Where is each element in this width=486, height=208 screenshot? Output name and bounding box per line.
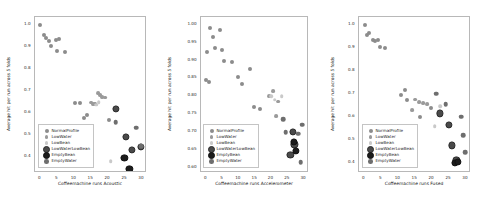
data-point: [57, 37, 61, 41]
y-tick: [200, 96, 201, 97]
y-tick: [200, 78, 201, 79]
data-point: [461, 133, 466, 138]
data-point: [274, 114, 278, 118]
legend-marker: [207, 152, 216, 159]
x-tick: [125, 171, 126, 172]
data-point: [97, 100, 101, 104]
data-point: [122, 133, 129, 140]
legend-label: EmptyWater: [376, 159, 401, 163]
legend-item[interactable]: EmptyWater: [207, 158, 255, 164]
legend-marker: [42, 135, 51, 139]
data-point: [121, 155, 128, 162]
legend-label: EmptyBean: [217, 153, 241, 157]
data-point: [363, 23, 367, 27]
x-tick-label: 10: [71, 176, 76, 180]
data-point: [405, 98, 409, 102]
x-tick-label: 5: [220, 176, 223, 180]
y-tick: [34, 113, 35, 114]
x-tick: [40, 171, 41, 172]
data-point: [222, 59, 226, 63]
data-point: [445, 121, 452, 128]
x-tick: [142, 171, 143, 172]
x-tick-label: 20: [268, 176, 273, 180]
y-tick-label: 0.8: [24, 66, 31, 70]
y-tick-label: 1.0: [348, 22, 355, 26]
data-point: [218, 28, 222, 32]
legend-dot-emptywater-icon: [368, 159, 373, 164]
legend-item[interactable]: EmptyWater: [366, 158, 414, 164]
data-point: [367, 31, 371, 35]
legend-marker: [207, 141, 216, 145]
y-tick-label: 0.6: [348, 114, 355, 118]
legend-marker: [366, 152, 375, 159]
y-tick: [34, 135, 35, 136]
x-tick: [255, 171, 256, 172]
legend-dot-lowbean-icon: [369, 141, 373, 145]
data-point: [109, 160, 113, 164]
data-point: [454, 158, 461, 165]
x-tick: [57, 171, 58, 172]
legend-label: LowWater: [52, 135, 72, 139]
legend-dot-emptywater-icon: [44, 159, 49, 164]
legend-label: EmptyBean: [376, 153, 400, 157]
data-point: [411, 108, 415, 112]
data-point: [211, 35, 215, 39]
y-tick: [34, 47, 35, 48]
y-tick-label: 0.95: [187, 40, 196, 44]
y-tick-label: 0.4: [348, 160, 355, 164]
y-tick-label: 0.5: [348, 137, 355, 141]
legend-label: LowBean: [52, 141, 71, 145]
data-point: [139, 144, 144, 149]
data-point: [429, 106, 433, 110]
y-tick: [200, 25, 201, 26]
legend-dot-emptybean-icon: [367, 152, 374, 159]
x-tick: [206, 171, 207, 172]
y-tick: [34, 69, 35, 70]
data-point: [299, 160, 304, 165]
y-tick-label: 1.0: [24, 22, 31, 26]
y-tick-label: 0.5: [24, 132, 31, 136]
y-axis-label: Average hit per run across 5 folds: [7, 57, 11, 131]
x-tick: [304, 171, 305, 172]
legend-item[interactable]: EmptyWater: [42, 158, 90, 164]
x-tick-label: 15: [252, 176, 257, 180]
scatter-figure: NormalProfileLowWaterLowBeanLowWaterLowB…: [0, 0, 486, 208]
legend-label: LowWater: [376, 135, 396, 139]
y-tick-label: 0.80: [187, 93, 196, 97]
legend-marker: [42, 129, 51, 133]
data-point: [378, 45, 382, 49]
legend-label: EmptyWater: [217, 159, 242, 163]
y-tick-label: 0.7: [24, 88, 31, 92]
x-axis-label: Coffeemachine runs Acoustic: [58, 182, 122, 186]
y-tick: [34, 157, 35, 158]
y-tick-label: 1.00: [187, 22, 196, 26]
data-point: [205, 50, 209, 54]
chart-legend: NormalProfileLowWaterLowBeanLowWaterLowB…: [203, 124, 259, 168]
legend-label: NormalProfile: [52, 129, 80, 133]
plot-area: NormalProfileLowWaterLowBeanLowWaterLowB…: [200, 16, 308, 172]
legend-marker: [42, 141, 51, 145]
x-tick: [239, 171, 240, 172]
legend-marker: [207, 135, 216, 139]
x-tick-label: 10: [395, 176, 400, 180]
y-tick-label: 0.85: [187, 75, 196, 79]
plot-area: NormalProfileLowWaterLowBeanLowWaterLowB…: [358, 16, 470, 172]
legend-label: LowWaterLowBean: [376, 147, 415, 151]
data-point: [463, 150, 468, 155]
legend-label: NormalProfile: [217, 129, 245, 133]
data-point: [107, 118, 111, 122]
legend-dot-lowbean-icon: [45, 141, 49, 145]
data-point: [78, 101, 82, 105]
y-tick: [358, 163, 359, 164]
data-point: [248, 67, 252, 71]
data-point: [236, 75, 240, 79]
data-point: [300, 123, 305, 128]
data-point: [113, 120, 118, 125]
data-point: [272, 89, 276, 93]
data-point: [283, 130, 288, 135]
legend-marker: [366, 129, 375, 133]
legend-label: EmptyWater: [52, 159, 77, 163]
legend-marker: [366, 159, 375, 164]
y-tick: [358, 48, 359, 49]
data-point: [128, 146, 135, 153]
